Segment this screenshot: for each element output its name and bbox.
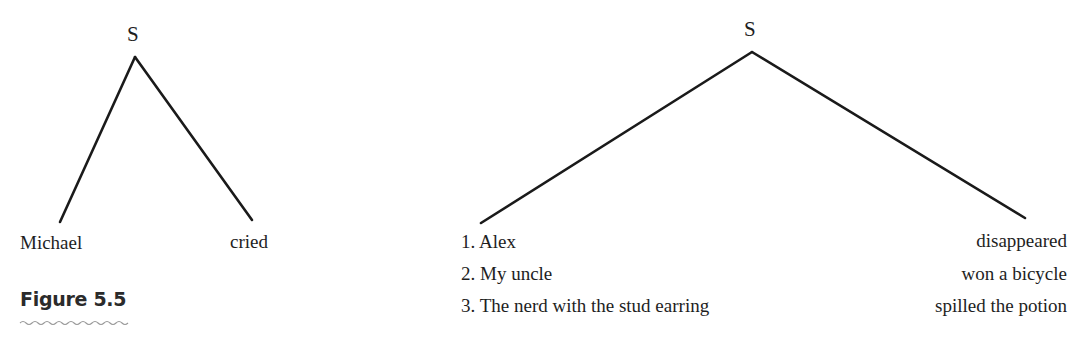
left-tree-right-branch: [135, 57, 252, 220]
left-leaf-item-2: 2. My uncle: [461, 264, 552, 283]
caption-wavy-underline: [20, 322, 128, 325]
left-tree-root-label: S: [127, 24, 139, 45]
right-tree-right-branch: [752, 52, 1025, 218]
right-tree-left-branch: [481, 52, 752, 223]
figure-caption: Figure 5.5: [20, 288, 126, 310]
right-leaf-item-2: won a bicycle: [961, 264, 1067, 283]
left-leaf-item-1: 1. Alex: [461, 232, 516, 251]
right-leaf-item-3: spilled the potion: [935, 296, 1067, 315]
right-tree-root-label: S: [744, 19, 756, 40]
left-tree-leaf-cried: cried: [230, 232, 268, 251]
left-leaf-item-3: 3. The nerd with the stud earring: [461, 296, 709, 315]
figure-canvas: S Michael cried Figure 5.5 S 1. Alex 2. …: [0, 0, 1080, 344]
tree-branches: [0, 0, 1080, 344]
left-tree-left-branch: [60, 57, 135, 222]
right-leaf-item-1: disappeared: [976, 231, 1067, 250]
left-tree-leaf-michael: Michael: [20, 233, 82, 252]
